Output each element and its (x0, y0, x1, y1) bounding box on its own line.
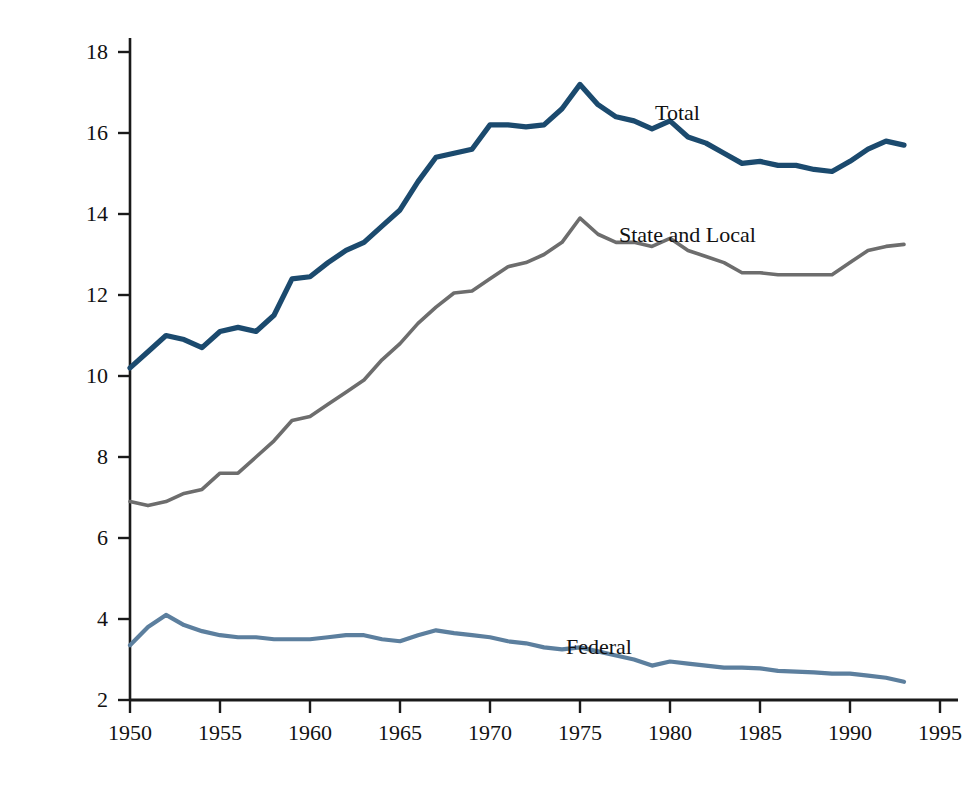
y-tick-label: 10 (40, 363, 108, 389)
x-tick-label: 1965 (378, 720, 422, 746)
chart-axes (118, 38, 958, 713)
series-annotation-federal: Federal (566, 634, 632, 660)
y-tick-label: 2 (40, 687, 108, 713)
x-tick-label: 1955 (198, 720, 242, 746)
y-tick-label: 12 (40, 282, 108, 308)
x-tick-label: 1950 (108, 720, 152, 746)
y-tick-label: 4 (40, 606, 108, 632)
x-tick-label: 1985 (738, 720, 782, 746)
line-chart-plot (0, 0, 972, 792)
chart-series-group (130, 84, 904, 681)
x-tick-label: 1980 (648, 720, 692, 746)
series-line-state-and-local (130, 218, 904, 506)
x-tick-label: 1975 (558, 720, 602, 746)
y-tick-label: 14 (40, 201, 108, 227)
y-tick-label: 8 (40, 444, 108, 470)
x-tick-label: 1960 (288, 720, 332, 746)
y-tick-label: 6 (40, 525, 108, 551)
x-tick-label: 1995 (918, 720, 962, 746)
y-tick-label: 18 (40, 39, 108, 65)
series-line-total (130, 84, 904, 368)
chart-figure: Percentage of Workforce 18161412108642 1… (0, 0, 972, 792)
x-tick-label: 1990 (828, 720, 872, 746)
series-annotation-total: Total (655, 100, 700, 126)
y-tick-label: 16 (40, 120, 108, 146)
x-tick-label: 1970 (468, 720, 512, 746)
series-annotation-state-and-local: State and Local (619, 222, 756, 248)
series-line-federal (130, 615, 904, 682)
